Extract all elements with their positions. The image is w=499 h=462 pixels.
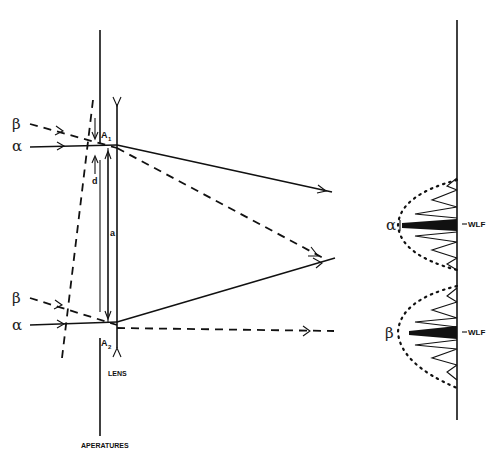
lens-top-cap-icon — [113, 97, 121, 106]
peak-label-beta: β — [385, 324, 394, 342]
ray-alpha-upper-out — [117, 145, 332, 192]
ray-alpha-upper-in — [30, 145, 117, 147]
ray-beta-upper-out — [117, 148, 327, 260]
ray-label-beta-upper: β — [12, 115, 21, 133]
ray-beta-lower-in — [30, 298, 117, 325]
dimension-label-a: a — [110, 228, 116, 238]
apertures-label: APERATURES — [81, 442, 129, 449]
ray-beta-lower-out — [117, 328, 334, 331]
optics-diagram: β α β α A 1 A 2 d a LENS APERATURES α β … — [0, 0, 499, 462]
aperture-label-a2-sub: 2 — [108, 344, 112, 350]
ray-label-alpha-lower: α — [12, 316, 22, 334]
wlf-label-beta: WLF — [468, 328, 485, 337]
ray-alpha-lower-in — [30, 322, 117, 325]
aperture-label-a1: A — [101, 130, 108, 140]
aperture-label-a2: A — [101, 338, 108, 348]
ray-label-alpha-upper: α — [12, 137, 22, 155]
lens-label: LENS — [108, 370, 127, 377]
dimension-label-d: d — [92, 176, 98, 186]
aperture-label-a1-sub: 1 — [108, 136, 112, 142]
ray-beta-upper-out-arrow-icon — [308, 247, 318, 256]
wlf-label-alpha: WLF — [468, 220, 485, 229]
peak-label-alpha: α — [386, 216, 396, 234]
wavefront-dashed-line — [62, 100, 93, 358]
alpha-central-fringe — [402, 219, 457, 231]
ray-alpha-lower-out — [117, 258, 335, 322]
left-panel: β α β α A 1 A 2 d a LENS APERATURES — [12, 30, 335, 449]
ray-label-beta-lower: β — [12, 289, 21, 307]
right-panel: α β WLF WLF — [385, 20, 485, 420]
lens-bottom-cap-icon — [113, 348, 121, 357]
beta-central-fringe — [409, 326, 457, 339]
